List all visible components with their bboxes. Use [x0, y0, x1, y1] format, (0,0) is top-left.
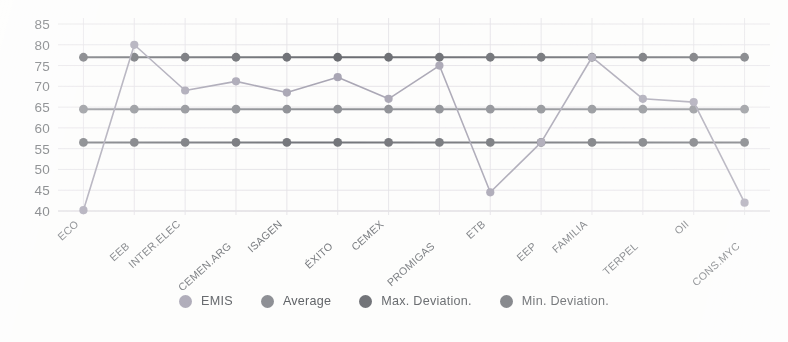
x-axis-category-label: ISAGEN — [245, 218, 284, 255]
legend-item-average[interactable]: Average — [261, 294, 331, 308]
x-axis-category-labels: ECOEEBINTER.ELECCEMEN.ARGISAGENÉXITOCEME… — [55, 217, 742, 290]
data-point[interactable] — [232, 77, 240, 85]
data-point[interactable] — [79, 53, 88, 62]
x-axis-category-label: ÉXITO — [302, 240, 335, 271]
data-point[interactable] — [638, 138, 647, 147]
legend-item-max-deviation[interactable]: Max. Deviation. — [359, 294, 472, 308]
x-axis-category-label: CEMEN.ARG — [176, 240, 234, 290]
legend-label-min-deviation: Min. Deviation. — [522, 294, 609, 308]
y-axis-tick-label: 60 — [35, 121, 50, 136]
y-axis-tick-label: 85 — [35, 17, 50, 32]
data-point[interactable] — [232, 138, 241, 147]
series-average — [79, 105, 749, 114]
data-point[interactable] — [435, 138, 444, 147]
data-point[interactable] — [486, 138, 495, 147]
data-point[interactable] — [130, 41, 138, 49]
data-point[interactable] — [384, 53, 393, 62]
x-axis-category-label: PROMIGAS — [385, 240, 437, 289]
data-point[interactable] — [740, 138, 749, 147]
data-point[interactable] — [588, 138, 597, 147]
data-point[interactable] — [689, 138, 698, 147]
data-point[interactable] — [282, 138, 291, 147]
y-axis-tick-label: 65 — [35, 100, 50, 115]
data-point[interactable] — [486, 105, 495, 114]
data-point[interactable] — [130, 138, 139, 147]
y-axis-tick-label: 50 — [35, 162, 50, 177]
data-point[interactable] — [588, 53, 596, 61]
data-point[interactable] — [537, 53, 546, 62]
x-axis-category-label: OII — [672, 218, 691, 237]
data-point[interactable] — [537, 105, 546, 114]
data-point[interactable] — [384, 138, 393, 147]
y-axis-tick-label: 80 — [35, 38, 50, 53]
x-axis-category-label: TERPEL — [600, 240, 640, 278]
data-point[interactable] — [181, 53, 190, 62]
data-point[interactable] — [537, 138, 545, 146]
x-axis-category-label: ECO — [55, 218, 81, 243]
series-min-deviation — [79, 138, 749, 147]
x-axis-category-label: ETB — [464, 218, 488, 241]
y-axis-tick-label: 70 — [35, 79, 50, 94]
data-point[interactable] — [79, 138, 88, 147]
data-point[interactable] — [181, 105, 190, 114]
x-axis-category-label: FAMILIA — [550, 217, 590, 255]
legend-item-emis[interactable]: EMIS — [179, 294, 233, 308]
data-point[interactable] — [638, 53, 647, 62]
line-chart: 85807570656055504540ECOEEBINTER.ELECCEME… — [0, 0, 788, 342]
y-axis-tick-label: 75 — [35, 59, 50, 74]
y-axis-tick-label: 45 — [35, 183, 50, 198]
data-point[interactable] — [689, 53, 698, 62]
data-point[interactable] — [130, 105, 139, 114]
chart-legend: EMIS Average Max. Deviation. Min. Deviat… — [0, 294, 788, 308]
data-point[interactable] — [740, 53, 749, 62]
legend-swatch-min-deviation — [500, 295, 513, 308]
legend-swatch-emis — [179, 295, 192, 308]
data-point[interactable] — [333, 105, 342, 114]
data-point[interactable] — [283, 88, 291, 96]
y-axis-tick-labels: 85807570656055504540 — [35, 17, 50, 219]
legend-swatch-max-deviation — [359, 295, 372, 308]
data-point[interactable] — [384, 95, 392, 103]
data-point[interactable] — [486, 53, 495, 62]
data-point[interactable] — [282, 105, 291, 114]
data-point[interactable] — [181, 138, 190, 147]
data-point[interactable] — [638, 105, 647, 114]
legend-swatch-average — [261, 295, 274, 308]
grid-lines — [58, 18, 770, 215]
data-point[interactable] — [333, 138, 342, 147]
data-point[interactable] — [690, 98, 698, 106]
data-point[interactable] — [282, 53, 291, 62]
legend-item-min-deviation[interactable]: Min. Deviation. — [500, 294, 609, 308]
legend-label-max-deviation: Max. Deviation. — [381, 294, 472, 308]
y-axis-tick-label: 40 — [35, 204, 50, 219]
x-axis-category-label: CONS.MYC — [690, 240, 742, 289]
data-point[interactable] — [384, 105, 393, 114]
data-point[interactable] — [232, 105, 241, 114]
data-point[interactable] — [79, 105, 88, 114]
data-point[interactable] — [588, 105, 597, 114]
data-point[interactable] — [486, 188, 494, 196]
legend-label-average: Average — [283, 294, 331, 308]
data-point[interactable] — [333, 53, 342, 62]
x-axis-category-label: EEP — [514, 240, 538, 264]
x-axis-category-label: CEMEX — [349, 218, 386, 253]
data-point[interactable] — [79, 206, 87, 214]
data-point[interactable] — [740, 105, 749, 114]
data-point[interactable] — [639, 95, 647, 103]
data-point[interactable] — [435, 61, 443, 69]
data-point[interactable] — [181, 86, 189, 94]
data-point[interactable] — [740, 199, 748, 207]
data-point[interactable] — [435, 105, 444, 114]
y-axis-tick-label: 55 — [35, 142, 50, 157]
data-point[interactable] — [334, 73, 342, 81]
plot-area: 85807570656055504540ECOEEBINTER.ELECCEME… — [0, 0, 788, 290]
series-max-deviation — [79, 53, 749, 62]
chart-canvas: 85807570656055504540ECOEEBINTER.ELECCEME… — [0, 0, 788, 290]
x-axis-category-label: INTER.ELEC — [126, 218, 183, 271]
data-point[interactable] — [435, 53, 444, 62]
legend-label-emis: EMIS — [201, 294, 233, 308]
data-point[interactable] — [232, 53, 241, 62]
